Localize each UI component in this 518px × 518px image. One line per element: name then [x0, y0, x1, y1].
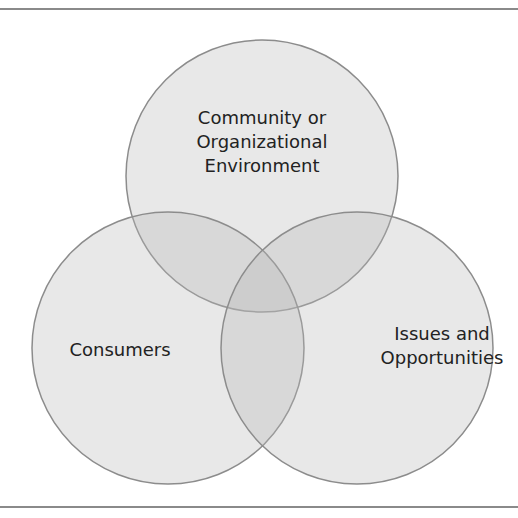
label-line: Issues and — [362, 322, 518, 346]
bottom-divider — [0, 506, 518, 508]
label-line: Opportunities — [362, 346, 518, 370]
label-line: Environment — [162, 154, 362, 178]
label-line: Organizational — [162, 130, 362, 154]
label-line: Community or — [162, 106, 362, 130]
venn-diagram — [0, 0, 518, 518]
label-issues: Issues and Opportunities — [362, 322, 518, 370]
label-consumers: Consumers — [50, 338, 190, 362]
label-line: Consumers — [50, 338, 190, 362]
label-community: Community or Organizational Environment — [162, 106, 362, 178]
